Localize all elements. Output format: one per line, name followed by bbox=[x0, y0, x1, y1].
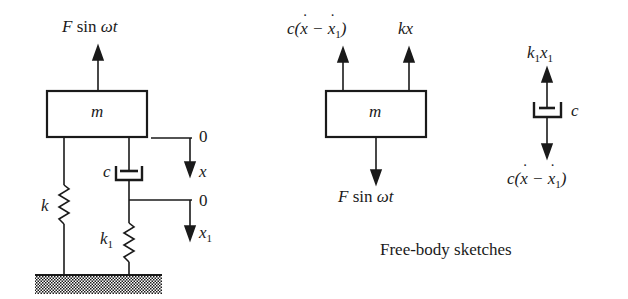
coord-x-label: x bbox=[199, 163, 207, 180]
fbd-damper-force-label: c(x − x1) bbox=[287, 20, 346, 40]
fbd-damper-bottom-force-label: c(x − x1) bbox=[507, 170, 566, 190]
force-arrow-up bbox=[93, 46, 103, 90]
fbd-applied-force-arrow bbox=[371, 137, 381, 184]
fbd-damper-c-label: c bbox=[571, 102, 579, 119]
ground-hatch bbox=[35, 276, 162, 294]
caption: Free-body sketches bbox=[380, 241, 512, 258]
coord-x1-arrow bbox=[129, 200, 195, 240]
damper-label: c bbox=[103, 163, 111, 180]
fbd-damper-top-force-label: k1x1 bbox=[527, 44, 553, 64]
damper-c bbox=[116, 137, 142, 200]
fbd-damper-force-arrow bbox=[338, 48, 348, 90]
fbd-damper-bottom-arrow bbox=[542, 117, 552, 158]
force-label: F sin ωt bbox=[62, 18, 117, 35]
fbd-applied-force-label: F sin ωt bbox=[338, 188, 393, 205]
fbd-mass-label: m bbox=[369, 103, 381, 120]
coord-x1-label: x1 bbox=[199, 224, 212, 244]
spring-k1 bbox=[124, 200, 134, 275]
spring-k-label: k bbox=[41, 197, 49, 214]
fbd-spring-force-label: kx bbox=[398, 20, 413, 37]
fbd-spring-force-arrow bbox=[404, 48, 414, 90]
coord-x1-zero: 0 bbox=[199, 192, 208, 209]
mass-label: m bbox=[91, 103, 103, 120]
spring-k1-label: k1 bbox=[100, 230, 113, 250]
coord-x-arrow bbox=[151, 138, 195, 176]
spring-k bbox=[59, 137, 69, 275]
fbd-damper-top-arrow bbox=[542, 68, 552, 107]
coord-x-zero: 0 bbox=[199, 128, 208, 145]
